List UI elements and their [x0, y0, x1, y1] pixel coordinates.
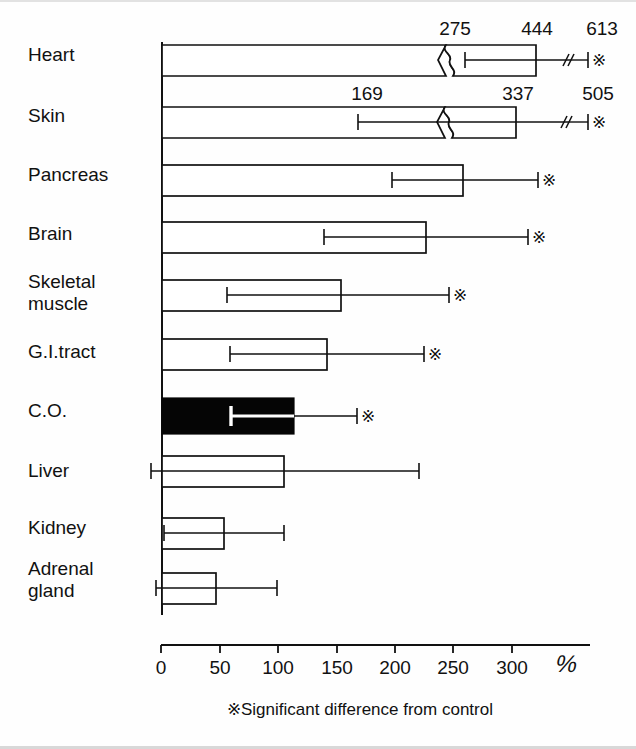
x-tick-label-300: 300 — [496, 657, 528, 679]
bar-group-gi-tract — [162, 339, 424, 370]
bar-group-brain — [162, 222, 528, 253]
x-tick-label-0: 0 — [156, 657, 167, 679]
significance-marker-pancreas: ※ — [542, 172, 556, 189]
x-axis — [161, 645, 590, 653]
bar-group-skeletal-muscle — [162, 280, 449, 311]
bar-group-kidney — [162, 518, 284, 549]
x-tick-label-100: 100 — [262, 657, 294, 679]
bar-heart-left-segment — [162, 45, 446, 76]
percent-sign: % — [553, 650, 580, 678]
significance-marker-gi-tract: ※ — [428, 346, 442, 363]
significance-marker-heart: ※ — [592, 52, 606, 69]
significance-marker-co: ※ — [361, 408, 375, 425]
bar-group-skin — [162, 107, 588, 138]
bar-group-co — [162, 398, 357, 434]
bar-group-heart — [162, 45, 588, 76]
x-tick-label-150: 150 — [321, 657, 353, 679]
x-tick-label-250: 250 — [437, 657, 469, 679]
significance-marker-brain: ※ — [532, 229, 546, 246]
x-tick-label-200: 200 — [379, 657, 411, 679]
significance-marker-skeletal-muscle: ※ — [453, 287, 467, 304]
bar-group-adrenal-gland — [156, 573, 277, 604]
significance-marker-skin: ※ — [592, 114, 606, 131]
x-axis-unit-label: % — [556, 650, 577, 678]
legend-significance: ※Significant difference from control — [227, 699, 493, 720]
bar-group-pancreas — [162, 165, 538, 196]
bar-group-liver — [151, 456, 419, 487]
x-tick-label-50: 50 — [209, 657, 230, 679]
figure-panel: Heart Skin Pancreas Brain Skeletal muscl… — [0, 0, 636, 749]
plot-canvas — [0, 0, 636, 749]
